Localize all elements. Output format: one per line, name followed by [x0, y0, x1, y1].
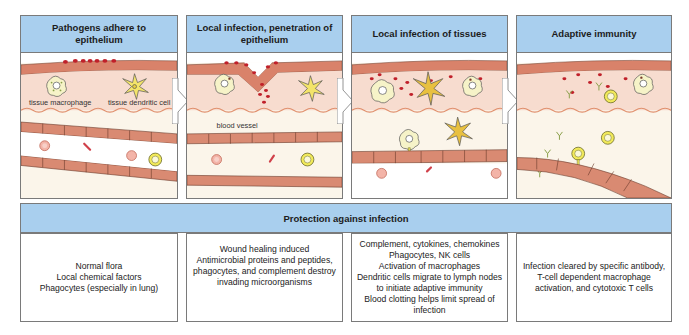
stage-title-2: Local infection, penetration of epitheli…: [187, 16, 342, 53]
protection-line: T-cell dependent macrophage: [537, 272, 651, 283]
stage-title-1: Pathogens adhere to epithelium: [21, 16, 177, 53]
protection-line: Antimicrobial proteins and peptides,: [196, 255, 332, 266]
protection-line: phagocytes, and complement destroy: [193, 266, 336, 277]
protection-line: Local chemical factors: [56, 272, 141, 283]
protection-line: Activation of macrophages: [379, 261, 480, 272]
stage-panel-3: Local infection of tissues: [351, 15, 508, 199]
protection-line: Dendritic cells migrate to lymph nodes: [357, 272, 502, 283]
protection-line: Blood clotting helps limit spread of: [364, 294, 494, 305]
stage-illustration-3: [352, 53, 507, 198]
protection-line: activation, and cytotoxic T cells: [535, 283, 653, 294]
protection-line: invading microorganisms: [217, 277, 312, 288]
stage-title-4: Adaptive immunity: [517, 16, 671, 53]
protection-box-4: Infection cleared by specific antibody, …: [516, 233, 672, 322]
stage-illustration-1: tissue macrophage tissue dendritic cell: [21, 53, 177, 198]
dendritic-cell-label: tissue dendritic cell: [108, 98, 171, 107]
protection-line: infection: [413, 305, 445, 316]
protection-line: Wound healing induced: [220, 244, 310, 255]
protection-box-3: Complement, cytokines, chemokines Phagoc…: [351, 233, 508, 322]
stage-panel-2: Local infection, penetration of epitheli…: [186, 15, 343, 199]
stage-illustration-2: blood vessel: [187, 53, 342, 198]
stage-panel-4: Adaptive immunity: [516, 15, 672, 199]
stage-panel-1: Pathogens adhere to epithelium tissue ma…: [20, 15, 178, 199]
protection-box-1: Normal flora Local chemical factors Phag…: [20, 233, 178, 322]
stage-title-3: Local infection of tissues: [352, 16, 507, 53]
protection-banner: Protection against infection: [20, 203, 672, 233]
protection-line: Phagocytes (especially in lung): [40, 283, 158, 294]
protection-line: Complement, cytokines, chemokines: [360, 239, 500, 250]
protection-line: Normal flora: [76, 261, 123, 272]
protection-line: to initiate adaptive immunity: [376, 283, 482, 294]
blood-vessel-label: blood vessel: [217, 121, 258, 130]
protection-line: Phagocytes, NK cells: [389, 250, 470, 261]
stage-illustration-4: [517, 53, 671, 198]
protection-line: Infection cleared by specific antibody,: [523, 261, 665, 272]
protection-box-2: Wound healing induced Antimicrobial prot…: [186, 233, 343, 322]
macrophage-label: tissue macrophage: [29, 98, 91, 107]
